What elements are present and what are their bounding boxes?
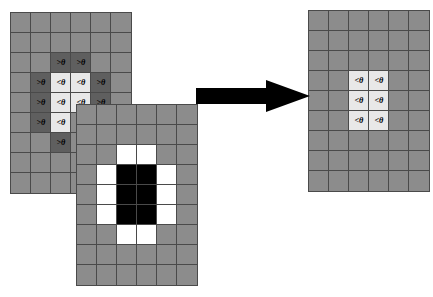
grid-cell — [409, 11, 429, 31]
grid-cell-labeled: >θ — [31, 113, 51, 133]
grid-cell — [349, 171, 369, 191]
grid-cell — [389, 11, 409, 31]
grid-cell — [137, 245, 157, 265]
grid-cell — [309, 111, 329, 131]
grid-cell — [177, 245, 197, 265]
grid-cell — [31, 153, 51, 173]
grid-cell — [117, 145, 137, 165]
grid-cell — [97, 105, 117, 125]
grid-cell — [349, 11, 369, 31]
grid-cell — [137, 205, 157, 225]
grid-cell — [111, 33, 131, 53]
grid-cell-labeled: >θ — [51, 133, 71, 153]
grid-cell — [97, 165, 117, 185]
grid-cell — [97, 185, 117, 205]
grid-cell — [157, 165, 177, 185]
grid-cell-labeled: <θ — [369, 71, 389, 91]
grid-cell-labeled: <θ — [349, 91, 369, 111]
grid-cell — [389, 171, 409, 191]
grid-cell — [77, 125, 97, 145]
grid-cell — [409, 51, 429, 71]
grid-cell — [177, 265, 197, 285]
grid-cell — [137, 225, 157, 245]
grid-cell — [11, 33, 31, 53]
grid-cell — [369, 31, 389, 51]
grid-cell — [157, 105, 177, 125]
grid-cell — [137, 165, 157, 185]
grid-cell — [51, 153, 71, 173]
grid-cell — [349, 131, 369, 151]
grid-cell — [51, 173, 71, 193]
grid-cell — [77, 185, 97, 205]
grid-cell — [389, 91, 409, 111]
grid-cell — [111, 73, 131, 93]
figure-canvas: >θ>θ>θ<θ<θ>θ>θ<θ<θ>θ>θ<θ>θ <θ<θ<θ<θ<θ<θ — [0, 0, 433, 297]
grid-cell-labeled: >θ — [31, 93, 51, 113]
result-grid: <θ<θ<θ<θ<θ<θ — [308, 10, 430, 192]
grid-cell-labeled: >θ — [71, 53, 91, 73]
grid-cell — [31, 33, 51, 53]
cell-label: <θ — [354, 116, 363, 125]
grid-cell — [369, 171, 389, 191]
grid-cell-labeled: >θ — [91, 73, 111, 93]
grid-cell — [31, 133, 51, 153]
grid-cell — [111, 53, 131, 73]
grid-cell — [329, 51, 349, 71]
grid-cell — [117, 185, 137, 205]
grid-cell — [329, 111, 349, 131]
grid-cell — [309, 71, 329, 91]
grid-cell — [157, 125, 177, 145]
grid-cell — [77, 265, 97, 285]
grid-cell — [77, 165, 97, 185]
grid-cell — [409, 131, 429, 151]
grid-cell — [177, 145, 197, 165]
grid-cell — [77, 105, 97, 125]
grid-cell — [409, 171, 429, 191]
grid-cell — [11, 93, 31, 113]
grid-cell — [97, 205, 117, 225]
grid-cell — [157, 145, 177, 165]
grid-cell — [389, 31, 409, 51]
grid-cell — [329, 131, 349, 151]
grid-cell-labeled: >θ — [51, 53, 71, 73]
grid-cell — [117, 245, 137, 265]
grid-cell — [409, 151, 429, 171]
grid-cell — [11, 53, 31, 73]
grid-cell — [137, 105, 157, 125]
grid-cell — [97, 225, 117, 245]
cell-label: <θ — [374, 96, 383, 105]
grid-cell — [309, 171, 329, 191]
grid-cell — [177, 205, 197, 225]
grid-cell — [137, 185, 157, 205]
grid-cell — [329, 91, 349, 111]
grid-cell — [309, 11, 329, 31]
grid-cell-labeled: <θ — [349, 71, 369, 91]
cell-label: >θ — [36, 78, 45, 87]
grid-cell — [369, 11, 389, 31]
grid-cell — [389, 151, 409, 171]
grid-cell-labeled: <θ — [51, 113, 71, 133]
grid-cell — [329, 11, 349, 31]
cell-label: <θ — [56, 98, 65, 107]
grid-cell — [349, 151, 369, 171]
grid-cell — [389, 111, 409, 131]
grid-cell — [409, 111, 429, 131]
grid-cell — [369, 51, 389, 71]
grid-cell — [71, 13, 91, 33]
transform-arrow — [196, 80, 310, 112]
grid-cell-labeled: <θ — [51, 93, 71, 113]
grid-cell — [11, 73, 31, 93]
grid-cell — [11, 133, 31, 153]
grid-cell — [177, 165, 197, 185]
grid-cell — [177, 125, 197, 145]
grid-cell — [117, 125, 137, 145]
grid-cell — [71, 33, 91, 53]
grid-cell — [409, 71, 429, 91]
grid-cell — [177, 225, 197, 245]
grid-cell — [409, 91, 429, 111]
grid-cell — [117, 205, 137, 225]
grid-cell — [349, 51, 369, 71]
grid-cell-labeled: <θ — [349, 111, 369, 131]
grid-cell-labeled: >θ — [31, 73, 51, 93]
grid-cell — [137, 265, 157, 285]
